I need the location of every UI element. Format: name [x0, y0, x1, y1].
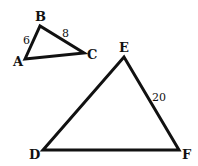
vertex-label-c: C — [87, 47, 97, 62]
side-label-ef: 20 — [152, 91, 166, 104]
vertex-label-d: D — [29, 147, 40, 162]
side-label-ab: 6 — [23, 34, 30, 47]
side-label-bc: 8 — [62, 27, 69, 40]
vertex-label-e: E — [119, 40, 129, 55]
vertex-label-b: B — [35, 9, 46, 24]
diagram-canvas: B A C 6 8 E D F 20 — [0, 0, 198, 166]
vertex-label-a: A — [12, 54, 24, 69]
vertex-label-f: F — [182, 147, 192, 162]
triangle-abc — [25, 26, 84, 59]
